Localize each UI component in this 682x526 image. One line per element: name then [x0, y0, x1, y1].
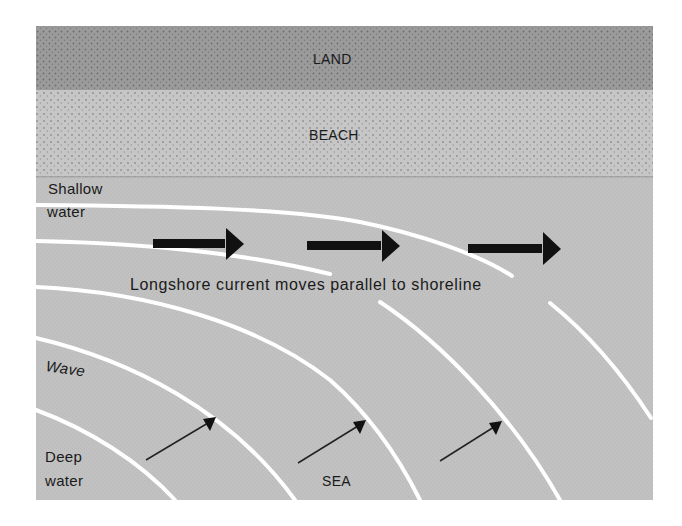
beach-label: BEACH	[309, 126, 359, 144]
sea-zone	[36, 178, 653, 500]
shallow-water-label-line1: Shallow	[48, 180, 103, 198]
diagram-canvas	[0, 0, 682, 526]
longshore-current-diagram: LAND BEACH Shallow water Longshore curre…	[0, 0, 682, 526]
longshore-current-caption: Longshore current moves parallel to shor…	[130, 276, 482, 294]
land-label: LAND	[313, 50, 352, 68]
deep-water-label-line2: water	[45, 472, 83, 490]
sea-label: SEA	[322, 472, 351, 490]
shallow-water-label-line2: water	[47, 203, 85, 221]
deep-water-label-line1: Deep	[45, 448, 82, 466]
